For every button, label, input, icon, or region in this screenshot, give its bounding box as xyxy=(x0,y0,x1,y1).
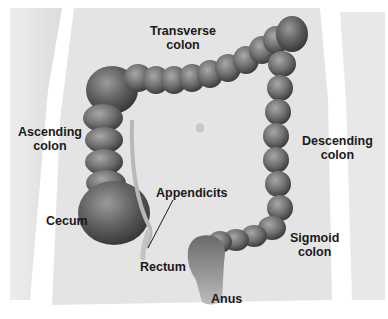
label-appendicits: Appendicits xyxy=(156,186,228,200)
navel xyxy=(196,123,204,133)
label-transverse-colon: Transverse colon xyxy=(150,24,216,52)
label-anus: Anus xyxy=(211,292,242,306)
label-descending-colon: Descending colon xyxy=(302,134,373,162)
label-ascending-colon: Ascending colon xyxy=(18,125,82,153)
cecum-shape xyxy=(78,181,150,245)
colon-diagram: Transverse colon Ascending colon Descend… xyxy=(0,0,388,319)
label-cecum: Cecum xyxy=(46,214,88,228)
label-rectum: Rectum xyxy=(140,260,186,274)
label-sigmoid-colon: Sigmoid colon xyxy=(290,231,339,259)
